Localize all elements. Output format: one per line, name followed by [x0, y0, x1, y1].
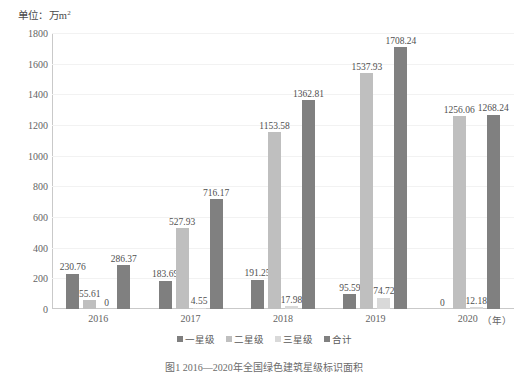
figure-caption: 图1 2016—2020年全国绿色建筑星级标识面积 [0, 359, 528, 374]
legend-swatch [275, 336, 281, 342]
bar[interactable]: 1268.24 [487, 115, 500, 309]
y-axis-tick-label: 600 [4, 212, 48, 223]
x-axis-tick-label: 2020 [458, 313, 478, 324]
legend-swatch [177, 336, 183, 342]
legend-swatch [226, 336, 232, 342]
bar[interactable]: 12.18 [470, 307, 483, 309]
bar[interactable]: 1537.93 [360, 73, 373, 309]
bar-value-label: 55.61 [79, 289, 100, 299]
legend-label: 合计 [332, 332, 352, 346]
x-axis-tick-label: 2019 [365, 313, 385, 324]
y-axis-tick-label: 400 [4, 242, 48, 253]
y-axis-tick-label: 1200 [4, 120, 48, 131]
legend-label: 一星级 [185, 332, 215, 346]
y-axis-tick-label: 200 [4, 273, 48, 284]
bar-value-label: 0 [104, 298, 109, 308]
x-axis-tick-label: 2016 [88, 313, 108, 324]
y-axis-tick-labels: 020040060080010001200140016001800 [0, 33, 48, 309]
x-axis-tick-label: 2018 [273, 313, 293, 324]
legend-item[interactable]: 合计 [324, 332, 352, 346]
bar-value-label: 0 [440, 298, 445, 308]
bar-value-label: 1362.81 [293, 89, 324, 99]
bar[interactable]: 716.17 [210, 199, 223, 309]
legend-item[interactable]: 三星级 [275, 332, 313, 346]
x-axis-tick-labels: （年） 20162017201820192020 [52, 311, 514, 329]
x-axis-unit-label: （年） [482, 313, 512, 327]
bar[interactable]: 527.93 [176, 228, 189, 309]
bar-value-label: 1153.58 [259, 121, 290, 131]
bar[interactable]: 1362.81 [302, 100, 315, 309]
x-axis-tick-label: 2017 [181, 313, 201, 324]
bar-value-label: 1708.24 [385, 36, 416, 46]
legend-swatch [324, 336, 330, 342]
y-axis-tick-label: 1400 [4, 89, 48, 100]
bar[interactable]: 4.55 [193, 308, 206, 309]
bar[interactable]: 286.37 [117, 265, 130, 309]
bar-value-label: 286.37 [111, 254, 137, 264]
bar-value-label: 17.98 [281, 295, 302, 305]
bar[interactable]: 55.61 [83, 300, 96, 309]
y-axis-tick-label: 800 [4, 181, 48, 192]
bar-value-label: 1537.93 [351, 62, 382, 72]
bar-value-label: 1268.24 [478, 103, 509, 113]
y-axis-unit-superscript: 2 [67, 9, 71, 17]
legend-item[interactable]: 一星级 [177, 332, 215, 346]
y-axis-tick-label: 0 [4, 304, 48, 315]
y-axis-tick-label: 1600 [4, 58, 48, 69]
bar[interactable]: 191.25 [251, 280, 264, 309]
bar-value-label: 12.18 [466, 296, 487, 306]
bar-value-label: 183.69 [152, 269, 178, 279]
y-axis-unit-text: 单位：万m [18, 10, 67, 21]
legend-label: 三星级 [283, 332, 313, 346]
bar-value-label: 1256.06 [444, 105, 475, 115]
bar[interactable]: 1153.58 [268, 132, 281, 309]
legend-item[interactable]: 二星级 [226, 332, 264, 346]
bar[interactable]: 17.98 [285, 306, 298, 309]
bar[interactable]: 95.59 [343, 294, 356, 309]
bar[interactable]: 1708.24 [394, 47, 407, 309]
bar-value-label: 527.93 [169, 217, 195, 227]
y-axis-unit-label: 单位：万m2 [18, 7, 71, 22]
legend-label: 二星级 [234, 332, 264, 346]
chart-legend: 一星级二星级三星级合计 [0, 332, 528, 346]
bar[interactable]: 230.76 [66, 274, 79, 309]
y-axis-tick-label: 1000 [4, 150, 48, 161]
bar[interactable]: 183.69 [159, 281, 172, 309]
y-axis-tick-label: 1800 [4, 28, 48, 39]
bar-value-label: 191.25 [244, 268, 270, 278]
bar[interactable]: 1256.06 [453, 116, 466, 309]
bar-value-label: 74.72 [373, 286, 394, 296]
bar[interactable]: 74.72 [377, 298, 390, 309]
bars-layer: 230.7655.610286.37183.69527.934.55716.17… [52, 33, 514, 309]
bar-value-label: 95.59 [339, 283, 360, 293]
bar-value-label: 230.76 [60, 262, 86, 272]
bar-value-label: 716.17 [203, 188, 229, 198]
bar-value-label: 4.55 [191, 296, 208, 306]
